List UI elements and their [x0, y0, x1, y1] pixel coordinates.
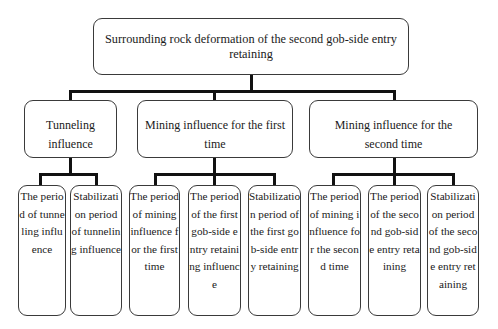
connector-mining-second-left: [332, 173, 335, 185]
node-label: Stabilization period of the second gob-s…: [428, 188, 478, 294]
connector-tunneling-right: [95, 173, 98, 185]
connector-mining-first-left: [154, 173, 157, 185]
node-label: Mining influence for the first time: [142, 116, 288, 154]
node-label: The period of mining influence for the s…: [309, 188, 360, 276]
connector-to-mining-second: [393, 90, 396, 100]
node-label: Tunneling influence: [41, 116, 100, 154]
node-label: The period of the second gob-side entry …: [369, 188, 420, 276]
node-second-gob-side-period: The period of the second gob-side entry …: [368, 185, 421, 316]
connector-mining-first-mid: [213, 173, 216, 185]
node-label: Stabilization period of the first gob-si…: [249, 188, 300, 276]
connector-tunneling-bar: [39, 173, 98, 176]
connector-tunneling-left: [39, 173, 42, 185]
connector-to-tunneling: [69, 90, 72, 100]
node-mining-second-period: The period of mining influence for the s…: [308, 185, 361, 316]
node-label: The period of the first gob-side entry r…: [189, 188, 240, 294]
connector-mining-second-stem: [393, 158, 396, 174]
connector-tunneling-stem: [69, 158, 72, 174]
root-node-label: Surrounding rock deformation of the seco…: [94, 32, 408, 62]
connector-mining-first-stem: [213, 158, 216, 174]
node-label: Mining influence for the second time: [318, 116, 469, 154]
node-label: The period of tunneling influence: [19, 188, 65, 258]
node-label: Stabilization period of tunneling influe…: [71, 188, 121, 258]
connector-root-bar: [69, 90, 396, 93]
connector-mining-second-mid: [393, 173, 396, 185]
connector-to-mining-first: [213, 90, 216, 100]
node-second-gob-side-stabilization: Stabilization period of the second gob-s…: [427, 185, 479, 316]
node-first-gob-side-period: The period of the first gob-side entry r…: [188, 185, 241, 316]
node-tunneling-influence: Tunneling influence: [24, 100, 117, 158]
connector-mining-first-right: [273, 173, 276, 185]
node-first-gob-side-stabilization: Stabilization period of the first gob-si…: [248, 185, 301, 316]
connector-mining-second-right: [452, 173, 455, 185]
root-node: Surrounding rock deformation of the seco…: [93, 18, 409, 75]
node-mining-influence-second: Mining influence for the second time: [309, 100, 478, 158]
node-mining-influence-first: Mining influence for the first time: [137, 100, 293, 158]
node-tunneling-stabilization: Stabilization period of tunneling influe…: [70, 185, 122, 316]
node-tunneling-period: The period of tunneling influence: [18, 185, 66, 316]
node-mining-first-period: The period of mining influence for the f…: [129, 185, 180, 316]
node-label: The period of mining influence for the f…: [130, 188, 179, 276]
